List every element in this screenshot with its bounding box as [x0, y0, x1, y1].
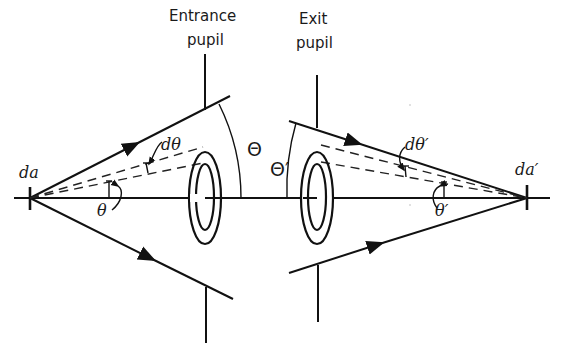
- entrance-annular-zone: [189, 152, 221, 244]
- object-cone-angle-label: Θ: [247, 138, 262, 160]
- object-ray-angle: θ: [97, 181, 121, 220]
- object-d-angle: dθ: [143, 135, 181, 173]
- object-ray-angle-label: θ: [97, 201, 107, 220]
- object-area-label: da: [19, 163, 39, 182]
- object-d-angle-label: dθ: [161, 135, 181, 154]
- exit-pupil-label-line2: pupil: [296, 34, 333, 52]
- image-d-angle-label: dθ′: [405, 135, 429, 154]
- object-area-element: da: [19, 163, 39, 210]
- exit-annular-zone: [301, 152, 333, 244]
- image-area-element: da′: [515, 160, 539, 210]
- exit-pupil-label-line1: Exit: [299, 10, 328, 28]
- image-ray-angle-label: θ′: [435, 201, 449, 220]
- entrance-pupil: Entrance pupil: [169, 7, 236, 343]
- image-cone-angle: Θ′: [270, 123, 296, 198]
- image-cone-angle-label: Θ′: [270, 158, 289, 180]
- optics-diagram: da da′ Entrance pupil Exit pupil: [0, 0, 564, 355]
- image-d-angle: dθ′: [400, 135, 429, 177]
- entrance-pupil-label-line1: Entrance: [169, 7, 236, 25]
- object-cone-angle: Θ: [219, 104, 262, 198]
- entrance-pupil-label-line2: pupil: [187, 31, 224, 49]
- image-ray-angle: θ′: [433, 182, 448, 220]
- image-area-label: da′: [515, 160, 539, 179]
